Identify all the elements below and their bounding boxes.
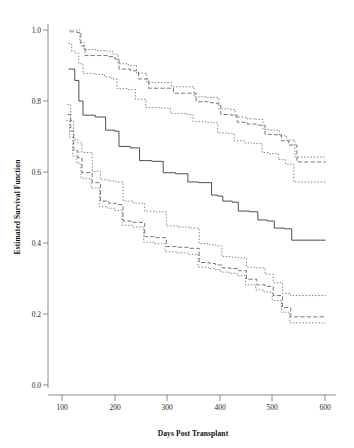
x-tick-label: 200 xyxy=(109,403,121,412)
series-path xyxy=(70,32,326,162)
y-tick-label: 0.4 xyxy=(32,239,42,248)
y-tick-label: 0.8 xyxy=(32,97,42,106)
y-tick-label: 0.2 xyxy=(32,310,42,319)
x-axis-title: Days Post Transplant xyxy=(158,429,229,438)
series-path xyxy=(67,121,326,323)
y-tick-label: 0.0 xyxy=(32,381,42,390)
series-path xyxy=(68,114,326,316)
series-path xyxy=(69,69,326,240)
x-tick-label: 300 xyxy=(161,403,173,412)
x-tick-label: 400 xyxy=(214,403,226,412)
chart-canvas: 1.0 0.8 0.6 0.4 0.2 0.0 100 200 300 400 … xyxy=(0,0,354,448)
y-tick-label: 0.6 xyxy=(32,168,42,177)
y-axis-ticks: 1.0 0.8 0.6 0.4 0.2 0.0 xyxy=(32,26,48,390)
survival-plot-figure: 1.0 0.8 0.6 0.4 0.2 0.0 100 200 300 400 … xyxy=(0,0,354,448)
series-path xyxy=(70,30,326,157)
series-group xyxy=(67,30,326,323)
x-axis-ticks: 100 200 300 400 500 600 xyxy=(56,395,331,412)
x-tick-label: 100 xyxy=(56,403,68,412)
x-tick-label: 500 xyxy=(266,403,278,412)
series-path xyxy=(68,105,326,296)
y-tick-label: 1.0 xyxy=(32,26,42,35)
y-axis-title: Estimated Survival Function xyxy=(13,159,22,255)
x-tick-label: 600 xyxy=(319,403,331,412)
series-path xyxy=(69,43,326,181)
